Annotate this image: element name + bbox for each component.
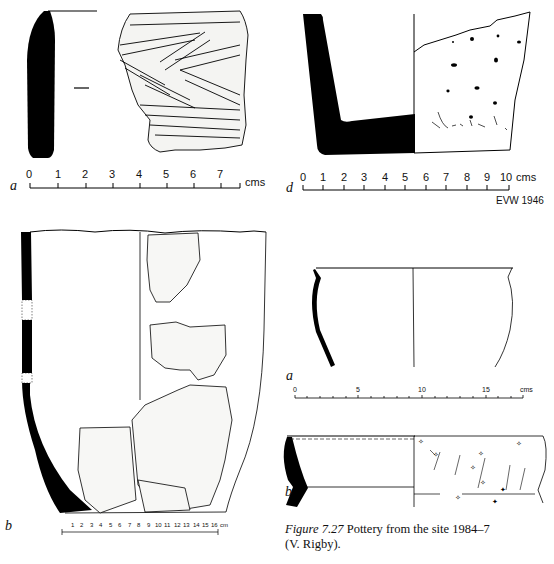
figure-caption: Figure 7.27 Pottery from the site 1984–7…	[285, 522, 545, 552]
scale-bar-b	[62, 529, 218, 535]
panel-letter-d: d	[286, 180, 293, 196]
scale-bar-a-top	[30, 183, 240, 188]
panel-letter-a-top: a	[10, 178, 17, 194]
sherd-a-profile	[27, 11, 97, 158]
svg-text:✦: ✦	[492, 498, 498, 506]
caption-credit: (V. Rigby).	[285, 537, 341, 551]
pottery-drawings: ✧✧✧ ✧✧✦ ✧✦✧	[0, 0, 554, 564]
scale-bar-d	[303, 185, 509, 190]
svg-text:✧: ✧	[480, 479, 486, 487]
vessel-b	[21, 230, 266, 513]
figure-number: Figure 7.27	[285, 522, 344, 536]
scale-bar-a-mid	[295, 395, 523, 398]
panel-letter-b-left: b	[5, 518, 12, 534]
svg-text:✧: ✧	[418, 438, 424, 446]
svg-text:✦: ✦	[500, 486, 506, 494]
svg-text:✧: ✧	[516, 440, 522, 448]
svg-text:✧: ✧	[433, 451, 439, 459]
bowl-a	[312, 268, 513, 367]
base-d-profile	[303, 12, 530, 155]
panel-letter-b-right: b	[285, 484, 292, 500]
rim-b: ✧✧✧ ✧✧✦ ✧✦✧	[284, 436, 546, 507]
caption-text: Pottery from the site 1984–7	[347, 522, 490, 536]
illustrator-credit: EVW 1946	[496, 195, 544, 206]
sherd-a-decorated	[118, 11, 248, 152]
svg-text:✧: ✧	[455, 494, 461, 502]
svg-text:✧: ✧	[470, 464, 476, 472]
svg-text:✧: ✧	[478, 450, 484, 458]
panel-letter-a-mid: a	[286, 368, 293, 384]
